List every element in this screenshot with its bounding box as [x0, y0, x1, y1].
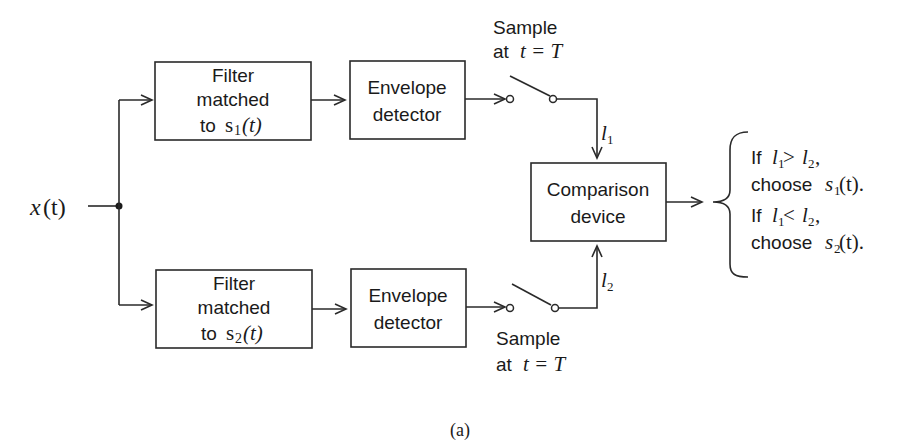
bottom-sample-label: Sample at t = T: [496, 328, 567, 376]
svg-text:choose: choose: [751, 232, 812, 253]
svg-text:,: ,: [815, 145, 820, 169]
svg-text:s: s: [225, 113, 233, 137]
svg-text:If: If: [751, 205, 762, 226]
svg-text:matched: matched: [197, 89, 270, 110]
svg-text:s: s: [825, 230, 833, 254]
svg-text:s: s: [825, 172, 833, 196]
svg-text:at: at: [496, 354, 513, 375]
bottom-envelope-detector-block: Envelope detector: [351, 269, 466, 347]
svg-text:If: If: [751, 147, 762, 168]
top-matched-filter-block: Filter matched to s 1 (t): [155, 62, 311, 140]
svg-text:Sample: Sample: [496, 328, 560, 349]
top-sample-label: Sample at t = T: [493, 17, 564, 63]
svg-text:to: to: [200, 115, 216, 136]
svg-text:2: 2: [607, 279, 614, 294]
svg-text:Comparison: Comparison: [547, 179, 649, 200]
svg-text:to: to: [201, 323, 217, 344]
bottom-sampling-switch: [507, 284, 559, 312]
svg-text:x: x: [29, 194, 41, 220]
svg-text:(t): (t): [43, 194, 66, 220]
top-sampling-switch: [507, 76, 557, 103]
svg-text:(t).: (t).: [839, 230, 864, 254]
l1-label: l 1: [601, 121, 614, 147]
bottom-matched-filter-block: Filter matched to s 2 (t): [156, 270, 312, 348]
svg-text:t = T: t = T: [523, 352, 567, 376]
decision-rule-1: If l 1 > l 2 , choose s 1 (t).: [751, 145, 864, 198]
svg-text:2: 2: [235, 331, 242, 346]
svg-text:detector: detector: [374, 312, 443, 333]
svg-text:choose: choose: [751, 174, 812, 195]
svg-text:(t): (t): [242, 113, 262, 137]
svg-text:2: 2: [808, 214, 815, 229]
svg-text:(t).: (t).: [839, 172, 864, 196]
svg-text:at: at: [493, 41, 510, 62]
decision-rule-2: If l 1 < l 2 , choose s 2 (t).: [751, 203, 864, 256]
svg-text:Filter: Filter: [213, 273, 256, 294]
figure-caption: (a): [450, 420, 470, 440]
l2-label: l 2: [601, 268, 614, 294]
svg-text:detector: detector: [373, 104, 442, 125]
input-signal-label: x (t): [29, 194, 66, 220]
svg-text:s: s: [226, 321, 234, 345]
svg-text:device: device: [571, 206, 626, 227]
svg-text:(t): (t): [243, 321, 263, 345]
svg-text:matched: matched: [198, 297, 271, 318]
svg-text:,: ,: [815, 203, 820, 227]
svg-text:Filter: Filter: [212, 65, 255, 86]
svg-text:2: 2: [808, 156, 815, 171]
svg-text:Envelope: Envelope: [368, 285, 447, 306]
svg-text:t = T: t = T: [520, 39, 564, 63]
svg-text:>: >: [783, 145, 795, 169]
svg-text:1: 1: [234, 123, 241, 138]
svg-text:Envelope: Envelope: [367, 77, 446, 98]
decision-brace: [713, 132, 748, 277]
comparison-device-block: Comparison device: [531, 163, 666, 241]
l2-arrow: [556, 246, 597, 308]
svg-text:1: 1: [607, 132, 614, 147]
matched-filter-receiver-diagram: x (t) Filter matched to s 1 (t) Envelope…: [0, 0, 923, 440]
svg-text:<: <: [783, 203, 795, 227]
top-envelope-detector-block: Envelope detector: [350, 61, 465, 139]
svg-text:Sample: Sample: [493, 17, 557, 38]
l1-arrow: [556, 99, 597, 158]
